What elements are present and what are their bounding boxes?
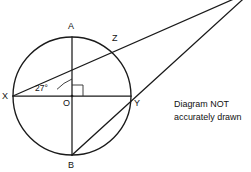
point-label-y: Y [134, 99, 140, 108]
note-line-2: accurately drawn [174, 110, 242, 123]
note-line-1: Diagram NOT [174, 97, 242, 110]
right-angle-square-mark [72, 85, 83, 96]
point-label-x: X [2, 92, 8, 101]
line-b-y-apex [72, 0, 251, 155]
angle-label-27-degrees: 27° [35, 84, 48, 93]
line-x-z-apex [13, 0, 251, 96]
angle-arc-27 [57, 79, 72, 89]
not-to-scale-note: Diagram NOT accurately drawn [174, 97, 242, 123]
point-label-a: A [68, 22, 74, 31]
point-label-z: Z [112, 34, 118, 43]
point-label-o: O [63, 99, 70, 108]
point-label-b: B [68, 161, 74, 170]
diagram-canvas: A Z X Y B O 27° Diagram NOT accurately d… [0, 0, 251, 172]
center-point-dot [71, 95, 74, 98]
